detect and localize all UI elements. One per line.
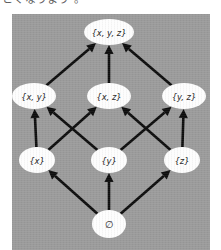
node-label-yz: {y, z}: [172, 92, 197, 102]
arrowhead-xz-to-xyz: [104, 45, 113, 54]
arrowhead-z-to-yz: [179, 109, 188, 118]
node-label-y: {y}: [101, 156, 117, 166]
edge-x-to-xy: [35, 118, 36, 147]
edge-empty-to-x: [55, 176, 97, 214]
edge-xy-to-xyz: [47, 49, 90, 85]
edge-y-to-yz: [121, 113, 165, 151]
edge-empty-to-z: [121, 176, 164, 214]
lattice-node-x[interactable]: {x}: [19, 147, 55, 173]
lattice-node-yz[interactable]: {y, z}: [162, 83, 206, 109]
caption-strip: とくなうまう 。: [0, 0, 221, 13]
node-label-xy: {x, y}: [21, 92, 47, 102]
node-label-z: {z}: [174, 156, 189, 166]
node-label-xz: {x, z}: [96, 92, 121, 102]
node-label-x: {x}: [29, 156, 45, 166]
lattice-node-empty[interactable]: ∅: [92, 210, 126, 238]
edge-y-to-xy: [53, 113, 97, 151]
caption-text: とくなうまう 。: [2, 0, 85, 6]
arrowhead-empty-to-y: [104, 173, 113, 182]
edge-layer: [30, 43, 187, 214]
lattice-node-xz[interactable]: {x, z}: [87, 83, 131, 109]
node-label-empty: ∅: [105, 219, 114, 230]
lattice-diagram-panel: {x, y, z}{x, y}{x, z}{y, z}{x}{y}{z}∅: [12, 14, 210, 250]
edge-z-to-xz: [128, 113, 171, 150]
lattice-node-y[interactable]: {y}: [91, 147, 127, 173]
lattice-node-xy[interactable]: {x, y}: [12, 83, 56, 109]
node-label-xyz: {x, y, z}: [92, 28, 127, 38]
lattice-node-z[interactable]: {z}: [164, 147, 200, 173]
edge-z-to-yz: [182, 118, 183, 147]
edge-yz-to-xyz: [129, 49, 172, 85]
arrowhead-x-to-xy: [30, 109, 39, 118]
lattice-diagram-svg: {x, y, z}{x, y}{x, z}{y, z}{x}{y}{z}∅: [12, 14, 210, 250]
edge-x-to-xz: [48, 113, 90, 150]
lattice-node-xyz[interactable]: {x, y, z}: [84, 19, 134, 45]
